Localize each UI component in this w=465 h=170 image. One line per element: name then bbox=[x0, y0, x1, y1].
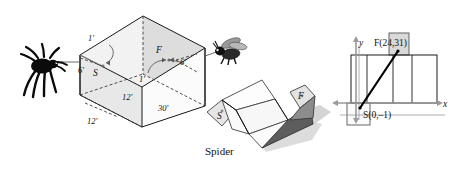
label-box-height: 12' bbox=[122, 92, 133, 102]
label-box-depth: 12' bbox=[87, 116, 98, 126]
label-spider-height: 6' bbox=[78, 65, 84, 75]
graph-point-spider-marker bbox=[358, 106, 361, 109]
label-spider-offset: 1' bbox=[88, 33, 94, 43]
figure-root: 1' 6' S F 6' 1' 12' 12' 30' bbox=[0, 0, 465, 170]
net-caption: Spider bbox=[205, 145, 234, 157]
label-point-fly: F bbox=[155, 45, 162, 55]
net-label-spider: S bbox=[217, 111, 222, 121]
graph-shortest-path-line bbox=[360, 51, 398, 108]
graph-grid-rect bbox=[351, 55, 437, 103]
box-point-spider-marker bbox=[101, 64, 104, 67]
label-fly-offset: 1' bbox=[139, 74, 145, 84]
label-point-spider: S bbox=[93, 68, 98, 78]
spider-icon bbox=[21, 44, 67, 97]
graph-panel: x y F(24,31) S(0,–1) bbox=[332, 33, 448, 125]
graph-axis-x-label: x bbox=[442, 99, 448, 109]
label-fly-height: 6' bbox=[180, 57, 186, 67]
spider-fly-figure: 1' 6' S F 6' 1' 12' 12' 30' bbox=[0, 0, 465, 170]
graph-point-fly-marker bbox=[396, 49, 399, 52]
fly-icon bbox=[213, 36, 247, 65]
graph-arrow-x-negative bbox=[332, 100, 338, 106]
graph-axis-y-label: y bbox=[358, 38, 364, 48]
net-panel: S F Spider bbox=[205, 80, 331, 157]
label-box-length: 30' bbox=[157, 103, 169, 113]
graph-label-fly: F(24,31) bbox=[374, 38, 407, 49]
net-label-fly: F bbox=[297, 91, 304, 101]
graph-label-spider: S(0,–1) bbox=[363, 110, 391, 121]
